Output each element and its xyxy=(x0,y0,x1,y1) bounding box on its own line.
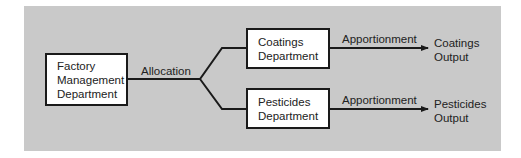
coatings-department-box: Coatings Department xyxy=(246,28,330,69)
source-line-1: Factory xyxy=(57,59,126,73)
coatings-output-label: Coatings Output xyxy=(434,36,479,64)
source-line-3: Department xyxy=(57,87,126,101)
pesticides-line-1: Pesticides xyxy=(258,95,328,109)
allocation-line-pesticides xyxy=(200,79,246,109)
coatings-output-line-2: Output xyxy=(434,50,479,64)
pesticides-output-label: Pesticides Output xyxy=(434,97,486,125)
pesticides-output-line-1: Pesticides xyxy=(434,97,486,111)
apportionment-label-pesticides: Apportionment xyxy=(342,93,417,107)
pesticides-department-box: Pesticides Department xyxy=(246,88,330,129)
pesticides-output-line-2: Output xyxy=(434,111,486,125)
pesticides-line-2: Department xyxy=(258,109,328,123)
factory-management-department-box: Factory Management Department xyxy=(45,53,128,106)
coatings-line-2: Department xyxy=(258,49,328,63)
allocation-label: Allocation xyxy=(141,64,191,78)
coatings-line-1: Coatings xyxy=(258,35,328,49)
source-line-2: Management xyxy=(57,73,126,87)
coatings-output-line-1: Coatings xyxy=(434,36,479,50)
apportionment-label-coatings: Apportionment xyxy=(342,32,417,46)
